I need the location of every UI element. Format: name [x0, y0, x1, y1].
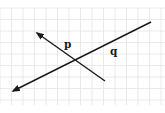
line-label-p: p — [64, 38, 71, 50]
lines-group — [13, 22, 151, 91]
intersecting-lines-diagram: pq — [0, 0, 165, 113]
line-q — [13, 22, 151, 91]
line-label-q: q — [110, 45, 118, 57]
